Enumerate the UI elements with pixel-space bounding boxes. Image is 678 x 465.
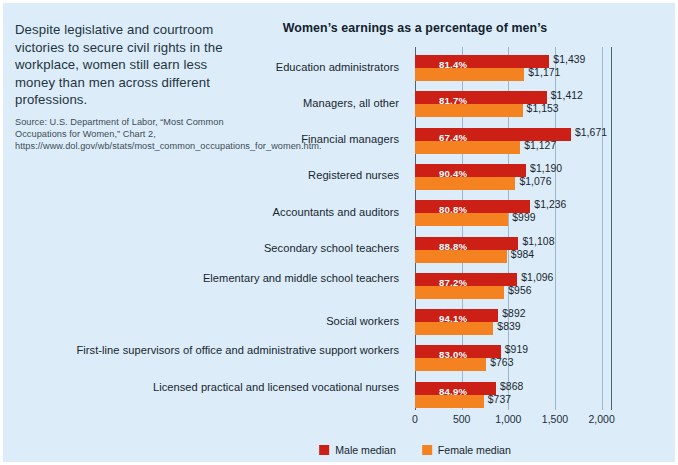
category-label: Education administrators <box>3 61 407 75</box>
category-label: Financial managers <box>3 133 407 147</box>
bar-group: 90.4%$1,190$1,076 <box>415 164 611 190</box>
ratio-label: 80.8% <box>439 204 467 215</box>
bar-female <box>415 104 523 117</box>
value-label-female: $984 <box>511 249 534 260</box>
x-tick-label: 1,500 <box>542 413 568 425</box>
bar-group: 84.9%$868$737 <box>415 382 611 408</box>
value-label-female: $1,127 <box>524 140 556 151</box>
bar-group: 67.4%$1,671$1,127 <box>415 128 611 154</box>
legend-swatch-female <box>422 445 432 455</box>
chart-title: Women’s earnings as a percentage of men’… <box>283 21 548 35</box>
value-label-female: $999 <box>512 212 535 223</box>
category-label: Managers, all other <box>3 97 407 111</box>
value-label-male: $1,108 <box>522 236 554 247</box>
bar-group: 87.2%$1,096$956 <box>415 273 611 299</box>
bar-group: 80.8%$1,236$999 <box>415 200 611 226</box>
value-label-female: $956 <box>508 285 531 296</box>
x-tick-label: 500 <box>453 413 471 425</box>
value-label-female: $737 <box>488 394 511 405</box>
legend-item-female: Female median <box>422 444 511 456</box>
value-label-female: $839 <box>497 321 520 332</box>
value-label-male: $919 <box>505 344 528 355</box>
bar-female <box>415 141 520 154</box>
category-label: Accountants and auditors <box>3 206 407 220</box>
category-label: First-line supervisors of office and adm… <box>3 344 407 358</box>
bar-group: 94.1%$892$839 <box>415 309 611 335</box>
value-label-female: $763 <box>490 357 513 368</box>
ratio-label: 81.4% <box>439 59 467 70</box>
ratio-label: 83.0% <box>439 349 467 360</box>
value-label-male: $1,096 <box>521 272 553 283</box>
value-label-male: $1,439 <box>553 54 585 65</box>
bar-male <box>415 164 526 177</box>
ratio-label: 84.9% <box>439 386 467 397</box>
bar-female <box>415 68 524 81</box>
bar-group: 83.0%$919$763 <box>415 345 611 371</box>
bar-group: 81.7%$1,412$1,153 <box>415 91 611 117</box>
value-label-male: $1,412 <box>551 90 583 101</box>
legend-item-male: Male median <box>319 444 396 456</box>
legend-label-male: Male median <box>335 444 396 456</box>
value-label-male: $1,671 <box>575 127 607 138</box>
plot-area: 05001,0001,5002,00081.4%$1,439$1,17181.7… <box>415 47 611 410</box>
value-label-female: $1,171 <box>528 67 560 78</box>
value-label-female: $1,153 <box>527 103 559 114</box>
value-label-male: $892 <box>502 308 525 319</box>
ratio-label: 81.7% <box>439 95 467 106</box>
category-label: Secondary school teachers <box>3 242 407 256</box>
legend-swatch-male <box>319 445 329 455</box>
value-label-female: $1,076 <box>519 176 551 187</box>
category-label: Registered nurses <box>3 169 407 183</box>
legend-label-female: Female median <box>438 444 511 456</box>
category-label: Social workers <box>3 315 407 329</box>
bar-group: 88.8%$1,108$984 <box>415 237 611 263</box>
x-tick-label: 2,000 <box>589 413 615 425</box>
ratio-label: 67.4% <box>439 132 467 143</box>
chart-figure: Despite legislative and courtroom victor… <box>0 0 678 465</box>
value-label-male: $1,236 <box>534 199 566 210</box>
bar-group: 81.4%$1,439$1,171 <box>415 55 611 81</box>
chart-legend: Male median Female median <box>319 444 511 456</box>
ratio-label: 94.1% <box>439 313 467 324</box>
x-tick-label: 0 <box>412 413 418 425</box>
ratio-label: 87.2% <box>439 277 467 288</box>
value-label-male: $1,190 <box>530 163 562 174</box>
ratio-label: 88.8% <box>439 241 467 252</box>
plot-right-border <box>611 47 612 410</box>
x-tick-label: 1,000 <box>495 413 521 425</box>
category-label: Elementary and middle school teachers <box>3 272 407 286</box>
category-label: Licensed practical and licensed vocation… <box>3 381 407 395</box>
value-label-male: $868 <box>500 381 523 392</box>
ratio-label: 90.4% <box>439 168 467 179</box>
